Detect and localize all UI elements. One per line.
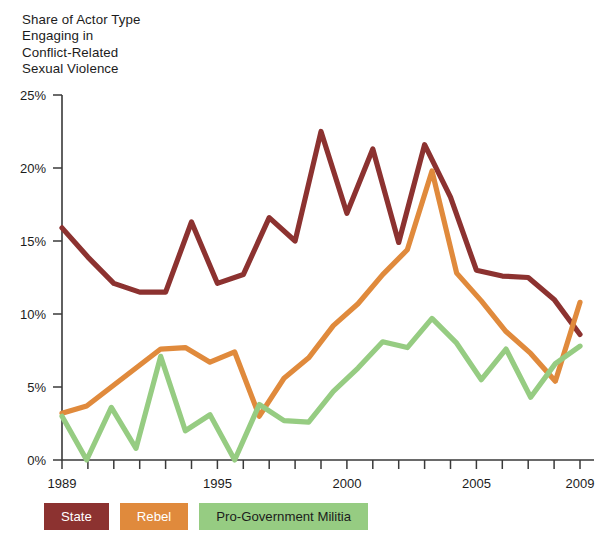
x-axis-ticks — [62, 460, 580, 469]
legend-item-militia[interactable]: Pro-Government Militia — [199, 503, 368, 530]
series-line-state — [62, 132, 580, 335]
data-series-group — [62, 132, 580, 461]
y-axis-labels: 0%5%10%15%20%25% — [20, 88, 46, 468]
x-tick-label: 2000 — [332, 476, 361, 491]
legend-label-state: State — [61, 510, 92, 523]
x-tick-label: 2009 — [566, 476, 595, 491]
legend-item-rebel[interactable]: Rebel — [120, 503, 188, 530]
legend-item-state[interactable]: State — [44, 503, 109, 530]
legend-label-militia: Pro-Government Militia — [216, 510, 351, 523]
x-tick-label: 1989 — [48, 476, 77, 491]
y-tick-label: 25% — [20, 88, 46, 103]
plot-area: 0%5%10%15%20%25% 19891995200020052009 — [0, 0, 603, 500]
y-tick-label: 10% — [20, 307, 46, 322]
y-axis-ticks — [53, 95, 62, 460]
legend-label-rebel: Rebel — [137, 510, 171, 523]
chart-legend: State Rebel Pro-Government Militia — [44, 503, 368, 530]
y-tick-label: 15% — [20, 234, 46, 249]
y-tick-label: 20% — [20, 161, 46, 176]
x-tick-label: 1995 — [203, 476, 232, 491]
x-tick-label: 2005 — [462, 476, 491, 491]
chart-page: Share of Actor Type Engaging in Conflict… — [0, 0, 603, 552]
line-chart-svg: 0%5%10%15%20%25% 19891995200020052009 — [0, 0, 603, 500]
x-axis-labels: 19891995200020052009 — [48, 476, 595, 491]
y-tick-label: 0% — [27, 453, 46, 468]
y-tick-label: 5% — [27, 380, 46, 395]
